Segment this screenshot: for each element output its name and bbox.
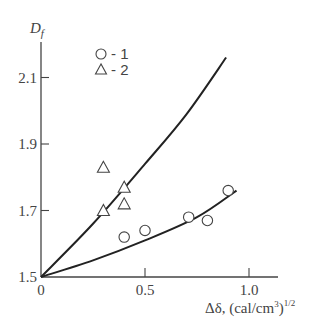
x-tick-label: 0 <box>37 282 45 298</box>
legend: - 1 - 2 <box>96 45 129 78</box>
legend-triangle-icon <box>96 64 107 74</box>
legend-label-2: - 2 <box>111 61 129 78</box>
data-point-circle <box>223 185 233 195</box>
legend-circle-icon <box>96 49 106 59</box>
chart: 00.51.01.51.71.92.1 Df Δδ, (cal/cm3)1/2 … <box>0 0 318 330</box>
x-axis-title: Δδ, (cal/cm3)1/2 <box>205 298 295 317</box>
legend-label-1: - 1 <box>111 45 129 62</box>
x-tick-label: 0.5 <box>136 282 155 298</box>
y-tick-label: 1.7 <box>18 203 37 219</box>
y-tick-label: 2.1 <box>18 70 37 86</box>
lower-fit-curve <box>41 191 237 277</box>
y-axis-title: Df <box>29 20 46 39</box>
y-tick-label: 1.5 <box>18 269 37 285</box>
x-tick-label: 1.0 <box>240 282 259 298</box>
data-point-circle <box>202 215 212 225</box>
data-point-triangle <box>118 198 130 209</box>
data-point-circle <box>140 225 150 235</box>
y-tick-label: 1.9 <box>18 136 37 152</box>
data-point-circle <box>119 232 129 242</box>
data-point-circle <box>183 212 193 222</box>
data-point-triangle <box>97 161 109 172</box>
